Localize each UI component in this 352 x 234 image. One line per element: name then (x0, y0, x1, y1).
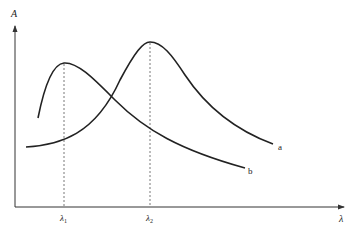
x-axis-label: λ (338, 213, 344, 224)
curve-b (38, 63, 245, 168)
curve-b-label: b (248, 166, 253, 176)
lambda2-subscript: 2 (150, 218, 153, 224)
curve-a (26, 42, 273, 147)
lambda1-subscript: 1 (64, 218, 67, 224)
curve-a-label: a (278, 142, 282, 152)
y-axis-label: A (10, 8, 18, 19)
spectra-diagram: A λ a b λ1 λ2 (0, 0, 352, 234)
lambda2-label: λ2 (145, 213, 153, 224)
lambda1-label: λ1 (59, 213, 67, 224)
